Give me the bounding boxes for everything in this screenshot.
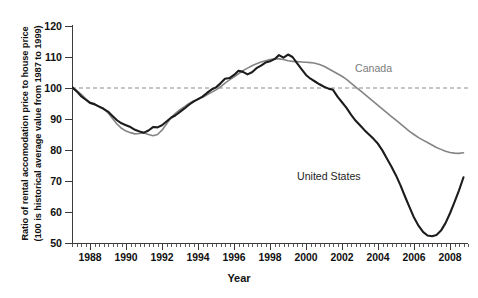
- x-tick-major: [306, 244, 307, 250]
- x-tick-label-1990: 1990: [106, 252, 146, 263]
- x-tick-minor: [401, 244, 402, 247]
- x-tick-minor: [216, 244, 217, 247]
- x-tick-label-2004: 2004: [358, 252, 398, 263]
- x-tick-minor: [239, 244, 240, 247]
- x-axis-title: Year: [0, 272, 478, 284]
- x-tick-label-1994: 1994: [178, 252, 218, 263]
- x-tick-label-2008: 2008: [430, 252, 470, 263]
- x-tick-minor: [396, 244, 397, 247]
- x-tick-minor: [243, 244, 244, 247]
- x-tick-minor: [360, 244, 361, 247]
- x-tick-minor: [203, 244, 204, 247]
- x-tick-minor: [446, 244, 447, 247]
- x-tick-minor: [131, 244, 132, 247]
- x-tick-minor: [302, 244, 303, 247]
- x-tick-minor: [392, 244, 393, 247]
- x-tick-minor: [347, 244, 348, 247]
- x-tick-minor: [212, 244, 213, 247]
- y-axis-title-line1: Ratio of rental accomodation price to ho…: [20, 26, 30, 240]
- x-tick-major: [90, 244, 91, 250]
- x-tick-minor: [140, 244, 141, 247]
- x-tick-minor: [410, 244, 411, 247]
- series-label-canada: Canada: [355, 62, 392, 74]
- x-tick-minor: [72, 244, 73, 247]
- x-tick-major: [270, 244, 271, 250]
- x-tick-minor: [153, 244, 154, 247]
- x-tick-minor: [338, 244, 339, 247]
- x-tick-minor: [288, 244, 289, 247]
- x-tick-major: [414, 244, 415, 250]
- x-tick-minor: [113, 244, 114, 247]
- x-tick-minor: [333, 244, 334, 247]
- x-tick-minor: [324, 244, 325, 247]
- x-tick-minor: [455, 244, 456, 247]
- x-tick-minor: [207, 244, 208, 247]
- x-tick-minor: [104, 244, 105, 247]
- x-tick-minor: [320, 244, 321, 247]
- x-tick-minor: [279, 244, 280, 247]
- x-tick-minor: [297, 244, 298, 247]
- x-tick-major: [342, 244, 343, 250]
- x-tick-label-1998: 1998: [250, 252, 290, 263]
- x-tick-minor: [252, 244, 253, 247]
- x-tick-minor: [135, 244, 136, 247]
- x-tick-minor: [428, 244, 429, 247]
- y-tick-label-100: 100: [36, 82, 62, 94]
- series-label-united-states: United States: [297, 170, 361, 182]
- x-tick-minor: [464, 244, 465, 247]
- x-tick-minor: [225, 244, 226, 247]
- x-tick-minor: [387, 244, 388, 247]
- x-tick-minor: [351, 244, 352, 247]
- x-tick-minor: [356, 244, 357, 247]
- x-tick-minor: [261, 244, 262, 247]
- x-tick-minor: [293, 244, 294, 247]
- x-tick-minor: [171, 244, 172, 247]
- x-tick-minor: [77, 244, 78, 247]
- x-tick-minor: [275, 244, 276, 247]
- x-tick-label-2002: 2002: [322, 252, 362, 263]
- x-tick-minor: [423, 244, 424, 247]
- x-tick-label-2006: 2006: [394, 252, 434, 263]
- x-tick-minor: [167, 244, 168, 247]
- x-tick-minor: [437, 244, 438, 247]
- chart-figure: Ratio of rental accomodation price to ho…: [0, 0, 478, 298]
- x-tick-minor: [86, 244, 87, 247]
- x-tick-minor: [405, 244, 406, 247]
- x-tick-label-1992: 1992: [142, 252, 182, 263]
- x-tick-minor: [149, 244, 150, 247]
- x-tick-minor: [248, 244, 249, 247]
- y-tick-label-50: 50: [36, 237, 62, 249]
- x-tick-minor: [468, 244, 469, 247]
- x-tick-major: [450, 244, 451, 250]
- x-tick-label-1996: 1996: [214, 252, 254, 263]
- x-tick-minor: [117, 244, 118, 247]
- y-tick-label-110: 110: [36, 51, 62, 63]
- x-tick-label-1988: 1988: [70, 252, 110, 263]
- x-tick-major: [378, 244, 379, 250]
- x-tick-minor: [81, 244, 82, 247]
- y-tick-label-80: 80: [36, 144, 62, 156]
- series-line-canada: [72, 59, 464, 154]
- x-tick-minor: [432, 244, 433, 247]
- x-tick-minor: [374, 244, 375, 247]
- x-tick-minor: [459, 244, 460, 247]
- x-tick-minor: [441, 244, 442, 247]
- x-tick-minor: [383, 244, 384, 247]
- y-tick-label-120: 120: [36, 20, 62, 32]
- x-tick-minor: [158, 244, 159, 247]
- x-tick-minor: [185, 244, 186, 247]
- x-tick-minor: [189, 244, 190, 247]
- x-tick-minor: [122, 244, 123, 247]
- x-tick-minor: [315, 244, 316, 247]
- x-tick-major: [198, 244, 199, 250]
- x-tick-minor: [144, 244, 145, 247]
- x-tick-minor: [230, 244, 231, 247]
- x-tick-minor: [108, 244, 109, 247]
- x-tick-minor: [369, 244, 370, 247]
- x-tick-minor: [365, 244, 366, 247]
- x-tick-major: [234, 244, 235, 250]
- y-tick-label-60: 60: [36, 206, 62, 218]
- series-line-united-states: [72, 55, 464, 237]
- x-tick-minor: [284, 244, 285, 247]
- x-tick-minor: [311, 244, 312, 247]
